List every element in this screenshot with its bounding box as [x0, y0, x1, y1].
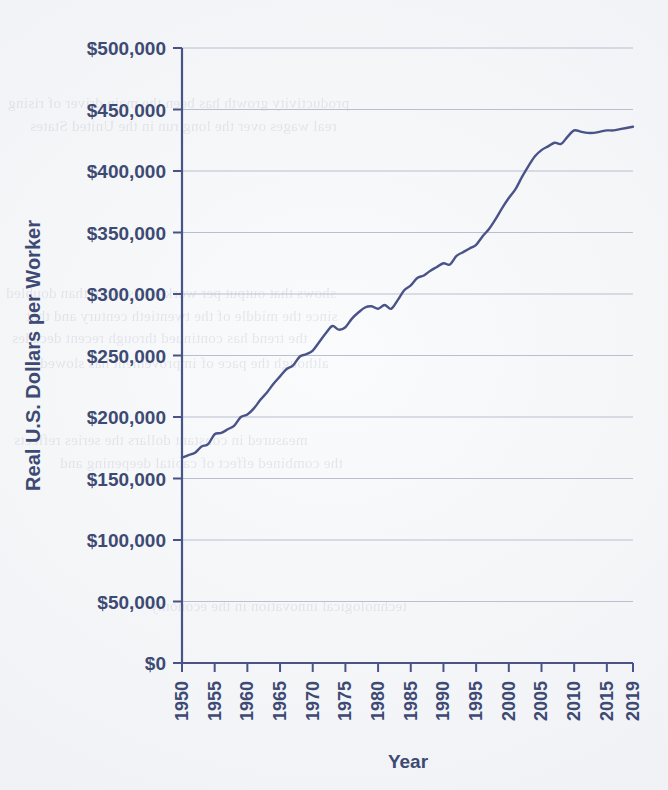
line-chart: $0$50,000$100,000$150,000$200,000$250,00…	[0, 0, 668, 790]
x-axis-title: Year	[388, 751, 429, 772]
y-axis-tick-label: $500,000	[87, 38, 166, 59]
y-axis-tick-label: $100,000	[87, 530, 166, 551]
x-axis-tick-label: 1960	[237, 681, 257, 721]
x-axis-tick-label: 2000	[499, 681, 519, 721]
y-axis-tick-group	[173, 48, 182, 663]
y-axis-tick-label: $150,000	[87, 469, 166, 490]
y-axis-tick-label: $300,000	[87, 284, 166, 305]
x-axis-tick-label: 1955	[205, 681, 225, 721]
y-axis-tick-label: $200,000	[87, 407, 166, 428]
x-axis-tick-label: 1980	[368, 681, 388, 721]
x-axis-tick-group	[182, 663, 633, 672]
x-axis-tick-label: 1970	[303, 681, 323, 721]
x-axis-tick-label: 1990	[433, 681, 453, 721]
y-axis-tick-label: $400,000	[87, 161, 166, 182]
data-series-line	[182, 127, 633, 458]
gridlines-group	[182, 48, 633, 602]
x-axis-tick-label: 1975	[335, 681, 355, 721]
y-axis-tick-labels: $0$50,000$100,000$150,000$200,000$250,00…	[87, 38, 166, 674]
y-axis-tick-label: $50,000	[97, 592, 166, 613]
x-axis-tick-label: 2005	[531, 681, 551, 721]
x-axis-tick-labels: 1950195519601965197019751980198519901995…	[172, 681, 643, 721]
x-axis-tick-label: 2010	[564, 681, 584, 721]
x-axis-tick-label: 1985	[401, 681, 421, 721]
x-axis-tick-label: 2019	[623, 681, 643, 721]
y-axis-tick-label: $0	[145, 653, 166, 674]
y-axis-title: Real U.S. Dollars per Worker	[22, 220, 44, 491]
x-axis-tick-label: 1965	[270, 681, 290, 721]
y-axis-tick-label: $250,000	[87, 346, 166, 367]
x-axis-tick-label: 1995	[466, 681, 486, 721]
x-axis-tick-label: 1950	[172, 681, 192, 721]
y-axis-tick-label: $350,000	[87, 223, 166, 244]
y-axis-tick-label: $450,000	[87, 100, 166, 121]
x-axis-tick-label: 2015	[597, 681, 617, 721]
